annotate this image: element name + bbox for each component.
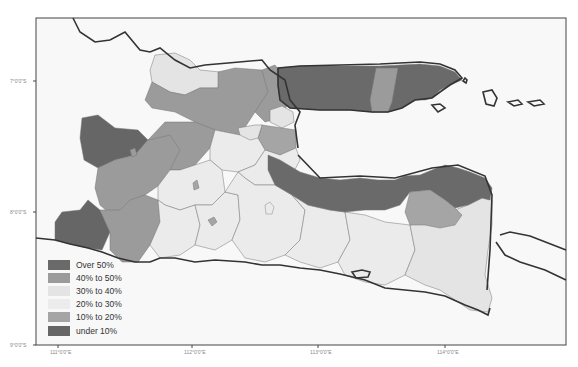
x-tick-label-2: 113°0'0"E	[310, 349, 332, 355]
legend-swatch	[48, 326, 70, 336]
legend-label: Over 50%	[76, 260, 114, 270]
legend-label: 30% to 40%	[76, 286, 122, 296]
legend-swatch	[48, 312, 70, 322]
legend-swatch	[48, 299, 70, 309]
legend-item-30-40: 30% to 40%	[48, 284, 122, 297]
x-tick-label-1: 112°0'0"E	[184, 349, 206, 355]
legend: Over 50% 40% to 50% 30% to 40% 20% to 30…	[48, 258, 122, 337]
legend-swatch	[48, 286, 70, 296]
legend-item-10-20: 10% to 20%	[48, 311, 122, 324]
legend-swatch	[48, 260, 70, 270]
legend-label: under 10%	[76, 326, 117, 336]
y-tick-label-1: 8°0'0"S	[10, 209, 27, 215]
x-tick-label-0: 111°0'0"E	[50, 349, 72, 355]
legend-label: 10% to 20%	[76, 312, 122, 322]
x-tick-label-3: 114°0'0"E	[437, 349, 459, 355]
legend-item-20-30: 20% to 30%	[48, 298, 122, 311]
legend-item-over-50: Over 50%	[48, 258, 122, 271]
legend-item-40-50: 40% to 50%	[48, 271, 122, 284]
legend-swatch	[48, 273, 70, 283]
legend-label: 20% to 30%	[76, 299, 122, 309]
y-tick-label-2: 9°0'0"S	[10, 342, 27, 348]
y-tick-label-0: 7°0'0"S	[10, 78, 27, 84]
legend-item-under-10: under 10%	[48, 324, 122, 337]
legend-label: 40% to 50%	[76, 273, 122, 283]
